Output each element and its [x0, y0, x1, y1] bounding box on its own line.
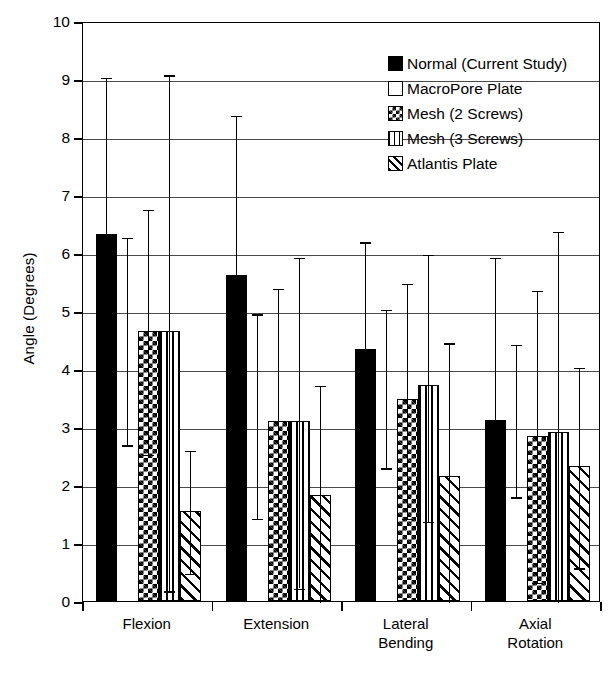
error-bar-cap	[511, 497, 522, 498]
legend-swatch-open-white-icon	[388, 81, 403, 96]
legend-item-label: Atlantis Plate	[407, 155, 497, 173]
error-bar-stem	[558, 232, 559, 603]
error-bar-stem	[299, 258, 300, 589]
error-bar-stem	[407, 284, 408, 519]
error-bar-cap	[273, 289, 284, 290]
error-bar-cap	[360, 435, 371, 436]
error-bar-cap	[574, 568, 585, 569]
y-axis-tick-label: 1	[30, 536, 70, 552]
x-axis-category-label-line: Lateral	[331, 614, 481, 633]
error-bar-cap	[294, 589, 305, 590]
x-axis-category-label: LateralBending	[331, 614, 481, 652]
gridline	[83, 255, 599, 256]
y-axis-tick-label: 2	[30, 478, 70, 494]
error-bar-cap	[532, 291, 543, 292]
error-bar-cap	[164, 591, 175, 592]
error-bar-stem	[278, 289, 279, 558]
x-axis-tick-mark	[471, 602, 473, 611]
error-bar-stem	[106, 78, 107, 420]
error-bar-stem	[579, 368, 580, 568]
error-bar-cap	[553, 232, 564, 233]
error-bar-stem	[495, 258, 496, 438]
legend-item: Atlantis Plate	[388, 151, 615, 176]
bar-chart: Angle (Degrees) 109876543210 Normal (Cur…	[0, 0, 615, 682]
legend-item: Normal (Current Study)	[388, 51, 615, 76]
legend-swatch-checkered-icon	[388, 106, 403, 121]
x-axis-category-label-line: Bending	[331, 633, 481, 652]
error-bar-cap	[511, 345, 522, 346]
error-bar-cap	[294, 258, 305, 259]
error-bar-stem	[320, 386, 321, 604]
x-axis-tick-mark	[82, 602, 84, 611]
error-bar-cap	[402, 519, 413, 520]
error-bar-stem	[365, 242, 366, 435]
error-bar-cap	[423, 255, 434, 256]
error-bar-cap	[122, 445, 133, 446]
y-axis-tick-label: 0	[30, 594, 70, 610]
legend-item: MacroPore Plate	[388, 76, 615, 101]
bar	[485, 420, 506, 601]
error-bar-cap	[231, 116, 242, 117]
x-axis-tick-mark	[341, 602, 343, 611]
x-axis-tick-mark	[212, 602, 214, 611]
error-bar-stem	[516, 345, 517, 498]
error-bar-cap	[185, 574, 196, 575]
x-axis-category-label-line: Extension	[201, 614, 351, 633]
y-axis-tick-label: 10	[30, 14, 70, 30]
error-bar-stem	[190, 451, 191, 574]
error-bar-cap	[252, 314, 263, 315]
error-bar-cap	[402, 284, 413, 285]
x-axis-tick-mark	[600, 602, 602, 611]
legend: Normal (Current Study)MacroPore PlateMes…	[388, 51, 615, 176]
error-bar-cap	[423, 522, 434, 523]
error-bar-cap	[252, 519, 263, 520]
error-bar-stem	[449, 343, 450, 603]
y-axis-tick-label: 7	[30, 188, 70, 204]
error-bar-stem	[127, 238, 128, 446]
error-bar-cap	[315, 386, 326, 387]
error-bar-stem	[386, 310, 387, 468]
error-bar-stem	[428, 255, 429, 522]
legend-item-label: Mesh (2 Screws)	[407, 105, 523, 123]
error-bar-cap	[101, 420, 112, 421]
y-axis-tick-label: 8	[30, 130, 70, 146]
error-bar-cap	[360, 242, 371, 243]
error-bar-stem	[169, 75, 170, 591]
y-axis-tick-label: 5	[30, 304, 70, 320]
legend-swatch-solid-black-icon	[388, 56, 403, 71]
x-axis-category-label-line: Rotation	[460, 633, 610, 652]
error-bar-cap	[143, 210, 154, 211]
error-bar-cap	[101, 78, 112, 79]
y-axis-tick-label: 9	[30, 72, 70, 88]
error-bar-stem	[236, 116, 237, 445]
x-axis-category-label-line: Axial	[460, 614, 610, 633]
legend-item-label: Normal (Current Study)	[407, 55, 567, 73]
error-bar-cap	[444, 343, 455, 344]
x-axis-category-label-line: Flexion	[72, 614, 222, 633]
x-axis-category-label: AxialRotation	[460, 614, 610, 652]
legend-item-label: Mesh (3 Screws)	[407, 130, 523, 148]
error-bar-stem	[148, 210, 149, 455]
legend-item-label: MacroPore Plate	[407, 80, 522, 98]
gridline	[83, 313, 599, 314]
error-bar-cap	[490, 438, 501, 439]
error-bar-cap	[273, 558, 284, 559]
error-bar-stem	[537, 291, 538, 583]
error-bar-cap	[381, 310, 392, 311]
legend-item: Mesh (2 Screws)	[388, 101, 615, 126]
error-bar-cap	[574, 368, 585, 369]
error-bar-cap	[490, 258, 501, 259]
error-bar-stem	[257, 314, 258, 519]
error-bar-cap	[122, 238, 133, 239]
error-bar-cap	[532, 583, 543, 584]
legend-item: Mesh (3 Screws)	[388, 126, 615, 151]
legend-swatch-vertical-stripes-icon	[388, 131, 403, 146]
legend-swatch-diagonal-stripes-icon	[388, 156, 403, 171]
y-axis-tick-label: 4	[30, 362, 70, 378]
error-bar-cap	[381, 468, 392, 469]
gridline	[83, 197, 599, 198]
error-bar-cap	[231, 445, 242, 446]
error-bar-cap	[164, 75, 175, 76]
x-axis-category-label: Extension	[201, 614, 351, 633]
x-axis-category-label: Flexion	[72, 614, 222, 633]
